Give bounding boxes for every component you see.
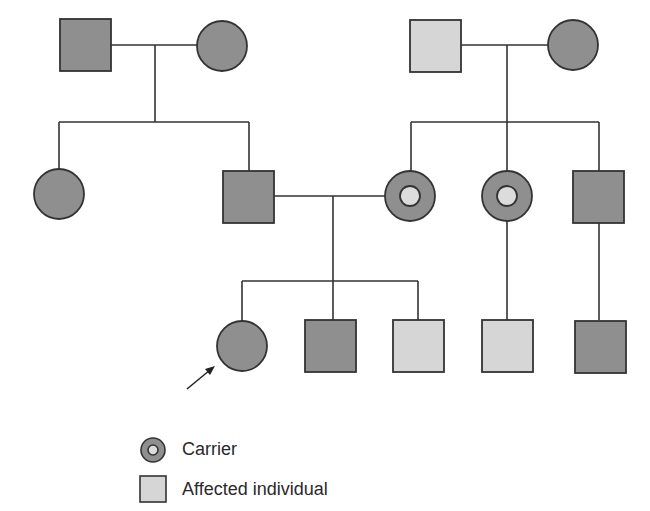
legend-carrier-icon: [141, 438, 165, 462]
carrier-dot-icon: [400, 186, 420, 206]
legend: [140, 438, 166, 502]
individual-I-1-male-unaffected: [60, 19, 111, 71]
proband-arrow-icon: [187, 366, 215, 389]
carrier-dot-icon: [497, 186, 517, 206]
individual-II-1-female-unaffected: [34, 169, 84, 219]
individual-III-4-male-affected: [482, 320, 533, 372]
individual-III-5-male-unaffected: [575, 321, 626, 373]
individual-I-2-female-unaffected: [197, 21, 247, 71]
legend-affected-icon: [140, 476, 166, 502]
individual-II-2-male-unaffected: [223, 171, 274, 223]
legend-label-carrier: Carrier: [182, 439, 237, 460]
individual-II-3-female-carrier: [385, 171, 435, 221]
individual-III-1-female-proband: [217, 321, 267, 371]
legend-label-affected: Affected individual: [182, 479, 328, 500]
individual-II-5-male-unaffected: [573, 171, 624, 223]
pedigree-chart: [0, 0, 650, 511]
individual-I-3-male-affected: [410, 20, 461, 72]
individual-III-2-male-unaffected: [305, 320, 356, 372]
individual-II-4-female-carrier: [482, 171, 532, 221]
individual-I-4-female-unaffected: [548, 20, 598, 70]
individual-III-3-male-affected: [393, 320, 444, 372]
